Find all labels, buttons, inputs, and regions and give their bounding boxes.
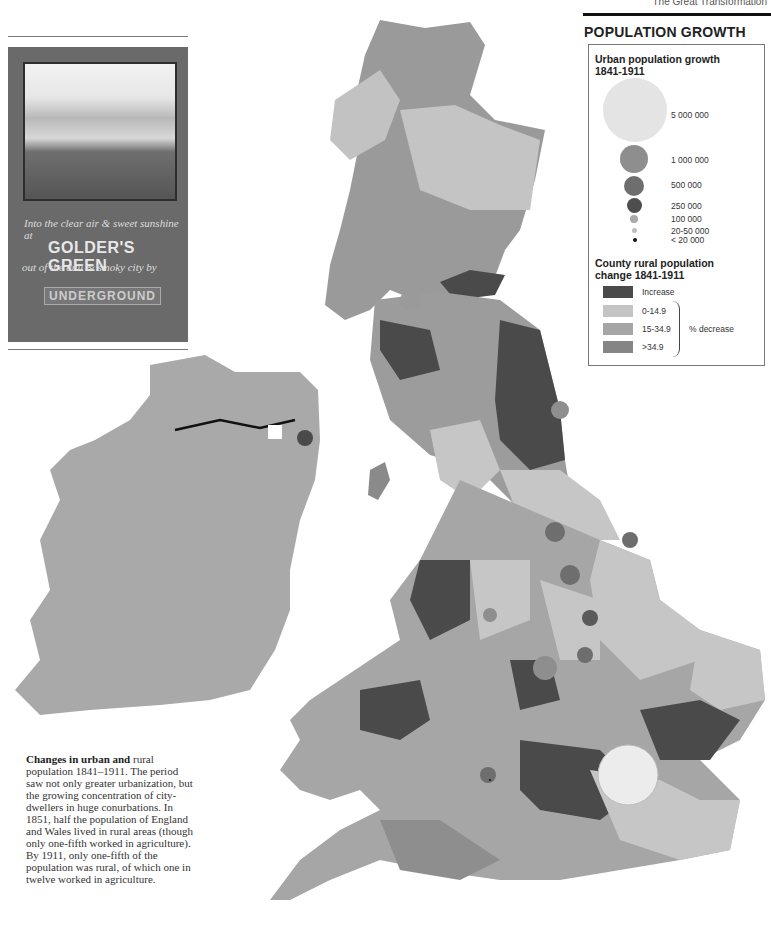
swatch-0-14-9 [603,305,633,317]
poster-line-1: Into the clear air & sweet sunshine at [24,217,188,241]
urban-heading-1: Urban population growth [595,53,720,65]
label-over-34-9: >34.9 [642,342,664,352]
golders-green-poster: Into the clear air & sweet sunshine at G… [8,47,188,342]
label-15-34-9: 15-34.9 [642,324,671,334]
label-decrease: % decrease [689,324,734,334]
legend-box: Urban population growth 1841-1911 5 000 … [588,44,765,366]
poster-line-3: out of the dull & smoky city by [22,261,157,273]
circle-20-50000 [632,228,637,233]
circle-500000 [624,176,644,196]
rural-heading-2: change 1841-1911 [595,269,684,281]
label-increase: Increase [642,287,675,297]
circle-1000000 [620,145,648,173]
label-100000: 100 000 [671,214,702,224]
poster-landscape-image [23,62,177,201]
urban-heading-2: 1841-1911 [595,65,645,77]
circle-5000000 [603,78,667,142]
circle-250000 [627,198,642,213]
swatch-increase [603,286,633,298]
caption-body: rural population 1841–1911. The period s… [26,753,193,885]
poster-bottom-rule [8,349,188,350]
map-caption: Changes in urban and rural population 18… [26,753,196,885]
label-0-14-9: 0-14.9 [642,306,666,316]
circle-under-20000 [633,238,637,242]
poster-top-rule [8,36,188,37]
label-under-20000: < 20 000 [671,235,704,245]
legend-title: POPULATION GROWTH [584,24,746,40]
label-1000000: 1 000 000 [671,155,709,165]
label-500000: 500 000 [671,180,702,190]
swatch-15-34-9 [603,323,633,335]
circle-100000 [630,215,638,223]
label-250000: 250 000 [671,201,702,211]
swatch-over-34-9 [603,341,633,353]
caption-lead: Changes in urban and [26,753,130,765]
decrease-brace [671,301,680,357]
label-5000000: 5 000 000 [671,110,709,120]
poster-line-4: UNDERGROUND [44,287,161,305]
rural-heading-1: County rural population [595,257,714,269]
ireland [15,355,320,715]
